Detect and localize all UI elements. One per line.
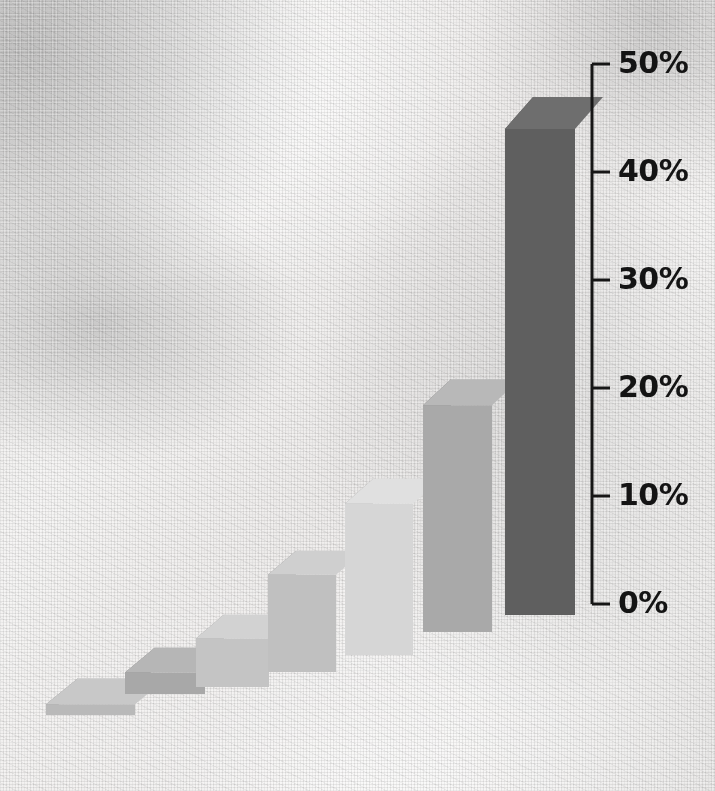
bar-front-face [196,638,269,687]
bar-chart-plot: 0%10%20%30%40%50% [0,0,715,791]
chart-canvas: 0%10%20%30%40%50% [0,0,715,791]
y-tick-label-30: 30% [618,261,688,296]
y-tick-label-40: 40% [618,153,688,188]
bar-front-face [423,405,492,632]
bar-front-face [345,504,413,655]
bar-top-face [505,97,603,129]
bar-chart-svg [0,0,715,791]
bar-front-face [505,129,575,615]
bar-front-face [268,575,336,672]
y-tick-label-20: 20% [618,369,688,404]
y-tick-label-50: 50% [618,45,688,80]
y-tick-label-0: 0% [618,585,668,620]
y-tick-label-10: 10% [618,477,688,512]
bar-front-face [125,672,205,694]
bar-7[interactable] [505,97,603,615]
bar-front-face [46,704,135,715]
y-axis [592,64,610,604]
